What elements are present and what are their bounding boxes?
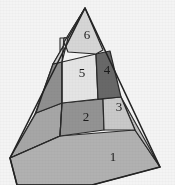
- segment-4-label: 4: [104, 62, 111, 77]
- segment-2-label: 2: [83, 109, 90, 124]
- pyramid-figure: 1 2 3 4 5 6: [0, 0, 175, 185]
- segment-5-label: 5: [79, 65, 86, 80]
- segment-1-label: 1: [110, 149, 117, 164]
- segment-6-label: 6: [84, 27, 91, 42]
- segment-3-label: 3: [116, 99, 123, 114]
- pyramid-diagram: 1 2 3 4 5 6: [0, 0, 175, 185]
